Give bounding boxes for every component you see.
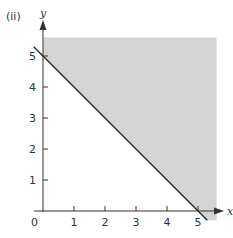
y-tick-label: 2: [29, 143, 36, 156]
y-axis-arrow-icon: [40, 20, 47, 30]
x-axis-label: x: [227, 205, 233, 218]
x-tick-label: 4: [164, 216, 171, 229]
y-tick-label: 5: [29, 50, 36, 63]
x-ticks: 12345: [71, 206, 202, 229]
inequality-chart: 12345 12345 x y 0: [0, 0, 233, 238]
x-tick-label: 2: [102, 216, 109, 229]
y-tick-label: 1: [29, 174, 36, 187]
x-tick-label: 5: [195, 216, 202, 229]
x-tick-label: 3: [133, 216, 140, 229]
y-tick-label: 3: [29, 112, 36, 125]
shaded-region: [43, 37, 217, 220]
y-axis-label: y: [39, 7, 47, 20]
y-ticks: 12345: [29, 50, 48, 187]
y-tick-label: 4: [29, 81, 36, 94]
x-tick-label: 1: [71, 216, 78, 229]
origin-label: 0: [31, 216, 38, 229]
x-axis-arrow-icon: [214, 208, 224, 215]
